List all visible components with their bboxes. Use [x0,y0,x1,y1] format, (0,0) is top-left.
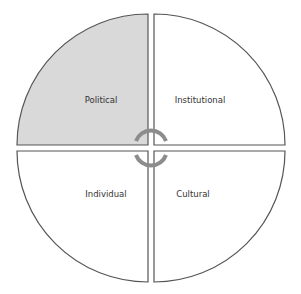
quadrant-individual: Individual [17,151,148,282]
quadrant-political-label: Political [85,95,118,105]
quadrant-institutional: Institutional [154,14,285,145]
quadrant-political: Political [17,14,148,145]
cycle-arrows-icon [136,131,166,166]
quadrant-cultural-label: Cultural [176,189,209,199]
quadrant-institutional-label: Institutional [175,95,226,105]
quadrant-individual-label: Individual [85,189,126,199]
quadrant-individual-shape [17,151,148,282]
quadrant-political-shape [17,14,148,145]
quadrant-institutional-shape [154,14,285,145]
quadrant-diagram: Political Institutional Individual Cultu… [0,0,301,294]
quadrant-cultural-shape [154,151,285,282]
quadrant-cultural: Cultural [154,151,285,282]
